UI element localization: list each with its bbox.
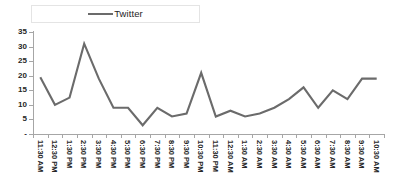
series-line-twitter <box>40 44 376 126</box>
line-chart: Twitter -5101520253035 11:30 AM12:30 PM1… <box>0 0 394 190</box>
series-layer <box>0 0 394 190</box>
plot-area: -5101520253035 11:30 AM12:30 PM1:30 PM2:… <box>0 0 394 190</box>
